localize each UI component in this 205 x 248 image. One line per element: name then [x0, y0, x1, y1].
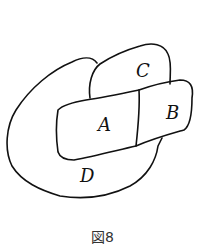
region-c-outline [89, 44, 170, 98]
region-diagram [0, 0, 205, 200]
label-d: D [80, 167, 94, 185]
label-a: A [98, 116, 111, 134]
label-c: C [136, 62, 150, 80]
region-b-outline [136, 80, 193, 146]
label-b: B [166, 104, 179, 122]
figure-caption: 図8 [0, 226, 205, 246]
